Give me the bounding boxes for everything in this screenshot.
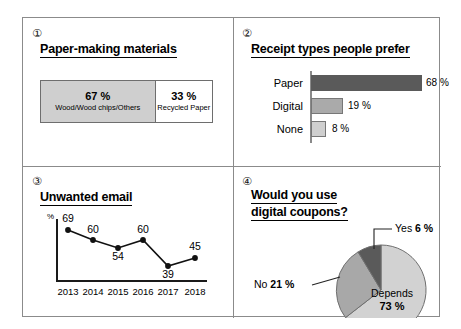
line-point-value-2018: 45: [182, 240, 208, 252]
panel-2-title: Receipt types people prefer: [251, 42, 410, 58]
line-point-value-2013: 69: [55, 212, 81, 224]
pie-label-yes: Yes 6 %: [395, 222, 433, 234]
bar-value-digital: 19 %: [348, 98, 371, 114]
line-x-label-2017: 2017: [155, 286, 181, 297]
line-point-value-2014: 60: [80, 223, 106, 235]
bar-value-none: 8 %: [332, 121, 349, 137]
line-x-label-2018: 2018: [182, 286, 208, 297]
stacked-segment-recycled: 33 % Recycled Paper: [156, 81, 212, 122]
line-x-label-2013: 2013: [55, 286, 81, 297]
panel-1-title: Paper-making materials: [40, 42, 177, 58]
bar-value-paper: 68 %: [426, 75, 449, 91]
bar-fill-digital: [311, 98, 343, 114]
pie-label-yes-value: 6 %: [415, 222, 433, 234]
line-chart-marker: [90, 237, 96, 243]
infographic-root: ① Paper-making materials 67 % Wood/Wood …: [0, 0, 461, 329]
line-chart: % 69 60 54 60: [23, 167, 233, 318]
segment-label-recycled: Recycled Paper: [157, 102, 210, 113]
bar-label-none: None: [243, 121, 303, 137]
bar-label-digital: Digital: [243, 98, 303, 114]
pie-label-no-name: No: [254, 278, 267, 290]
line-point-value-2016: 60: [130, 223, 156, 235]
bar-row-digital: Digital 19 %: [244, 98, 434, 114]
pie-label-depends-value: 73 %: [357, 300, 427, 313]
pie-label-no-value: 21 %: [270, 278, 294, 290]
stacked-segment-wood: 67 % Wood/Wood chips/Others: [41, 81, 156, 122]
line-point-value-2015: 54: [105, 250, 131, 262]
panel-unwanted-email: ③ Unwanted email % 6: [23, 167, 233, 318]
line-x-label-2014: 2014: [80, 286, 106, 297]
line-x-label-2015: 2015: [105, 286, 131, 297]
panel-digital-coupons: ④ Would you use digital coupons? Yes 6 %…: [234, 167, 441, 318]
line-point-value-2017: 39: [155, 268, 181, 280]
pie-label-depends-name: Depends: [357, 287, 427, 300]
bar-row-none: None 8 %: [244, 121, 434, 137]
pie-label-yes-name: Yes: [395, 222, 412, 234]
line-chart-marker: [140, 237, 146, 243]
panel-number-2: ②: [242, 28, 252, 39]
segment-label-wood: Wood/Wood chips/Others: [55, 102, 140, 113]
figure-frame: ① Paper-making materials 67 % Wood/Wood …: [22, 17, 440, 317]
stacked-bar-chart: 67 % Wood/Wood chips/Others 33 % Recycle…: [40, 80, 213, 123]
line-x-label-2016: 2016: [130, 286, 156, 297]
panel-paper-making-materials: ① Paper-making materials 67 % Wood/Wood …: [23, 18, 233, 166]
line-chart-marker: [192, 255, 198, 261]
pie-label-no: No 21 %: [254, 278, 294, 290]
bar-row-paper: Paper 68 %: [244, 75, 434, 91]
line-chart-marker: [65, 227, 71, 233]
segment-value-wood: 67 %: [85, 90, 110, 102]
panel-number-1: ①: [32, 28, 42, 39]
bar-fill-none: [311, 121, 326, 137]
bar-fill-paper: [311, 75, 422, 91]
pie-leader-no: [312, 277, 340, 285]
pie-label-depends: Depends 73 %: [357, 287, 427, 313]
segment-value-recycled: 33 %: [171, 90, 196, 102]
line-chart-series: [68, 230, 195, 266]
panel-receipt-types: ② Receipt types people prefer Paper 68 %…: [234, 18, 441, 166]
bar-label-paper: Paper: [243, 75, 303, 91]
